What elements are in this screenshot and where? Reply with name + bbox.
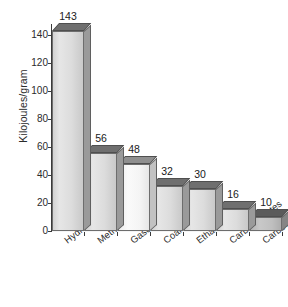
y-tick-label-100: 100: [14, 86, 48, 96]
y-tick-label-120: 120: [14, 58, 48, 68]
bar-chart: Kilojoules/gram 020406080100120140 143Hy…: [0, 0, 288, 307]
y-tick-label-0: 0: [14, 226, 48, 236]
value-label-carbohydrates: 16: [219, 189, 247, 200]
bar-side-face: [216, 183, 223, 231]
y-tick-label-140: 140: [14, 30, 48, 40]
bar-hydrogen[interactable]: [52, 31, 84, 231]
value-label-carbon-monoxide: 10: [252, 197, 280, 208]
bar-side-face: [117, 146, 124, 231]
bar-side-face: [183, 180, 190, 231]
y-tick-label-20: 20: [14, 198, 48, 208]
bar-front-face: [52, 31, 84, 231]
y-tick-label-60: 60: [14, 142, 48, 152]
value-label-gasoline: 48: [120, 144, 148, 155]
value-label-methane: 56: [87, 133, 115, 144]
value-label-coal: 32: [153, 166, 181, 177]
plot-area: [51, 20, 283, 232]
y-tick-mark: [48, 231, 52, 232]
bar-side-face: [150, 158, 157, 231]
bar-side-face: [84, 25, 91, 231]
y-tick-label-80: 80: [14, 114, 48, 124]
value-label-hydrogen: 143: [54, 11, 82, 22]
y-tick-label-40: 40: [14, 170, 48, 180]
y-axis-tick-labels: 020406080100120140: [12, 0, 48, 307]
